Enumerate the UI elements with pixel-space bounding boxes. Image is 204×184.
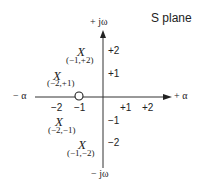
axis-label-x-neg: − α [13, 90, 26, 101]
pole-label-4: (−1,−2) [67, 148, 94, 158]
axis-label-x-pos: + α [174, 90, 187, 101]
x-tick-neg1: −1 [74, 102, 85, 113]
x-tick-pos2: +2 [142, 102, 153, 113]
y-tick-pos2: +2 [108, 45, 119, 56]
pole-label-2: (−2,+1) [47, 78, 74, 88]
pole-label-1: (−1,+2) [66, 55, 93, 65]
x-tick-pos1: +1 [120, 102, 131, 113]
pole-label-3: (−2,−1) [48, 125, 75, 135]
y-tick-neg1: −1 [108, 115, 119, 126]
plane-title: S plane [151, 11, 192, 25]
imaginary-axis-arrow-icon [100, 30, 106, 38]
axis-label-y-neg: − jω [91, 168, 109, 179]
zero-marker-icon [75, 92, 83, 100]
axis-label-y-pos: + jω [90, 16, 108, 27]
y-tick-neg2: −2 [108, 137, 119, 148]
y-tick-pos1: +1 [108, 68, 119, 79]
x-tick-neg2: −2 [51, 102, 62, 113]
real-axis-arrow-icon [163, 94, 172, 100]
